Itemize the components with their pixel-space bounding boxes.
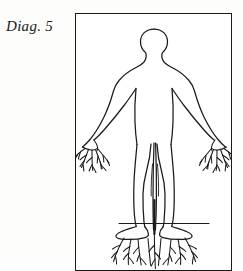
left-root-5a <box>103 156 104 163</box>
rooted-human-figure-illustration <box>76 14 232 271</box>
left-root-3b <box>89 165 92 172</box>
foot-root-r2c <box>176 257 181 264</box>
right-root-3a <box>217 158 223 163</box>
left-leg-inner <box>143 144 151 227</box>
foot-root-l3a <box>134 247 139 254</box>
foot-tap-root <box>154 234 155 269</box>
foot-root-l3 <box>138 240 141 266</box>
left-leg-outer <box>134 145 137 227</box>
right-root-1 <box>224 149 232 157</box>
left-root-3a <box>87 158 93 163</box>
right-torso-side <box>171 89 173 145</box>
legs <box>134 143 175 234</box>
foot-root-l2c <box>129 257 134 264</box>
right-root-5a <box>205 156 206 163</box>
foot-root-r1c <box>192 257 193 265</box>
head-right-to-hand <box>154 29 226 147</box>
foot-root-centre-l <box>148 239 151 266</box>
foot-root-l1 <box>114 238 125 262</box>
body-outline <box>83 29 226 147</box>
centre-accent <box>151 164 152 196</box>
figure-frame <box>75 13 232 271</box>
right-inner-arm <box>172 89 214 141</box>
foot-root-r3 <box>168 240 171 266</box>
foot-tap-root-a <box>149 245 155 252</box>
right-root-1b <box>232 155 233 161</box>
right-leg-outer <box>171 145 174 227</box>
right-foot <box>160 227 192 240</box>
foot-root-l1c <box>116 257 117 265</box>
centre-accent-2 <box>158 164 159 196</box>
right-root-3b <box>217 165 220 172</box>
left-hand-roots <box>76 140 110 173</box>
left-root-2c <box>83 165 84 172</box>
right-root-2c <box>225 165 226 172</box>
foot-root-l3b <box>137 254 140 262</box>
head-left-to-hand <box>83 29 155 147</box>
left-foot <box>116 227 148 240</box>
left-root-4a <box>97 156 98 163</box>
foot-root-l2 <box>128 239 131 265</box>
left-torso-side <box>135 89 137 145</box>
left-inner-arm <box>94 89 136 141</box>
foot-root-r3b <box>169 254 172 262</box>
right-root-4a <box>211 156 212 163</box>
foot-root-r3a <box>170 247 175 254</box>
foot-root-r2 <box>178 239 181 265</box>
foot-root-r1 <box>185 238 196 262</box>
figure-caption: Diag. 5 <box>6 18 53 35</box>
centre-line-2 <box>155 143 156 230</box>
foot-root-centre-r <box>158 239 161 266</box>
right-hand-roots <box>200 140 233 173</box>
